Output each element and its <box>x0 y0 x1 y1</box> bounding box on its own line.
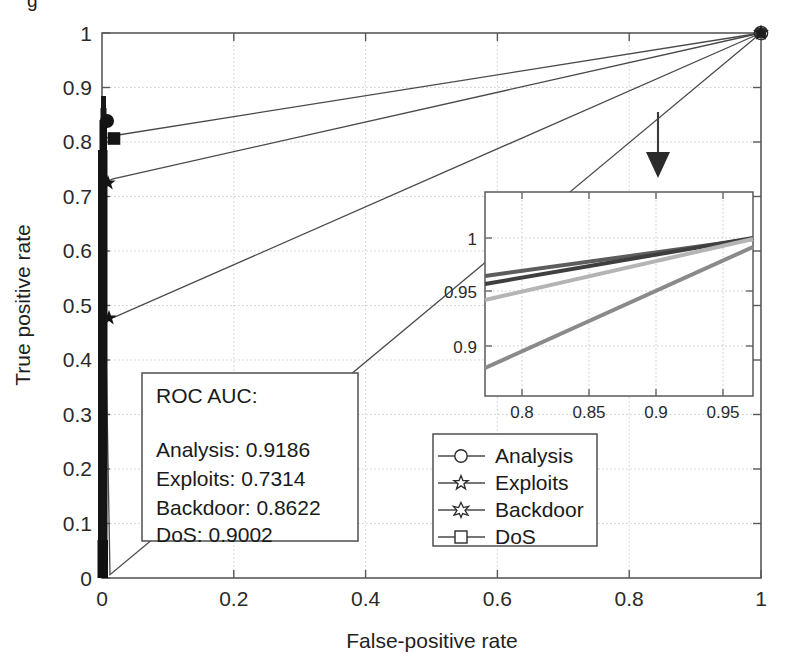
y-tick-label: 0.3 <box>63 403 92 426</box>
legend[interactable]: Analysis Exploits Backdoor <box>433 434 597 548</box>
corner-markers <box>753 25 769 40</box>
roc-auc-entry-dos: DoS: 0.9002 <box>156 523 273 546</box>
inset-x-tick-label: 0.8 <box>510 403 534 422</box>
legend-label: Exploits <box>495 471 569 494</box>
legend-label: Analysis <box>495 444 573 467</box>
x-tick-label: 1 <box>755 587 767 610</box>
inset-x-tick-label: 0.9 <box>644 403 668 422</box>
circle-marker <box>455 450 467 462</box>
y-tick-label: 0.6 <box>63 239 92 262</box>
roc-auc-box: ROC AUC: Analysis: 0.9186 Exploits: 0.73… <box>142 373 358 546</box>
inset-x-tick-labels: 0.8 0.85 0.9 0.95 <box>510 403 739 422</box>
inset-x-tick-label: 0.85 <box>572 403 605 422</box>
roc-auc-entry-analysis: Analysis: 0.9186 <box>156 438 310 461</box>
legend-label: DoS <box>495 525 536 548</box>
x-axis-tick-labels: 0 0.2 0.4 0.6 0.8 1 <box>96 587 767 610</box>
legend-label: Backdoor <box>495 498 584 521</box>
roc-sample-cluster <box>98 96 109 578</box>
square-marker <box>455 531 467 543</box>
roc-curve-figure: g <box>0 0 797 668</box>
inset-y-tick-labels: 1 0.95 0.9 <box>444 230 477 357</box>
inset-y-tick-label: 1 <box>468 230 477 249</box>
x-tick-label: 0.6 <box>483 587 512 610</box>
x-tick-label: 0.8 <box>615 587 644 610</box>
square-marker <box>109 133 120 144</box>
roc-auc-entry-exploits: Exploits: 0.7314 <box>156 467 306 490</box>
y-tick-label: 0.9 <box>63 76 92 99</box>
roc-auc-box-title: ROC AUC: <box>156 384 258 407</box>
roc-plot-svg: 0 0.1 0.2 0.3 0.4 0.5 0.6 0.7 0.8 0.9 1 … <box>0 0 797 668</box>
y-tick-label: 0.1 <box>63 512 92 535</box>
y-axis-tick-labels: 0 0.1 0.2 0.3 0.4 0.5 0.6 0.7 0.8 0.9 1 <box>63 22 93 590</box>
y-tick-label: 0.8 <box>63 130 92 153</box>
inset-axes: 1 0.95 0.9 0.8 0.85 0.9 0.95 <box>444 192 753 422</box>
y-tick-label: 0 <box>80 567 92 590</box>
y-axis-title: True positive rate <box>11 224 34 385</box>
x-tick-label: 0.2 <box>219 587 248 610</box>
partial-top-glyph: g <box>27 0 38 12</box>
x-tick-label: 0.4 <box>351 587 381 610</box>
y-tick-label: 1 <box>80 22 92 45</box>
y-tick-label: 0.4 <box>63 348 93 371</box>
circle-marker <box>101 115 113 127</box>
x-axis-title: False-positive rate <box>346 629 518 652</box>
y-tick-label: 0.5 <box>63 294 92 317</box>
y-tick-label: 0.2 <box>63 457 92 480</box>
inset-x-tick-label: 0.95 <box>706 403 739 422</box>
roc-auc-entry-backdoor: Backdoor: 0.8622 <box>156 496 321 519</box>
x-tick-label: 0 <box>96 587 108 610</box>
down-arrow-pointer <box>646 112 670 178</box>
inset-y-tick-label: 0.9 <box>453 338 477 357</box>
y-tick-label: 0.7 <box>63 185 92 208</box>
inset-y-tick-label: 0.95 <box>444 283 477 302</box>
